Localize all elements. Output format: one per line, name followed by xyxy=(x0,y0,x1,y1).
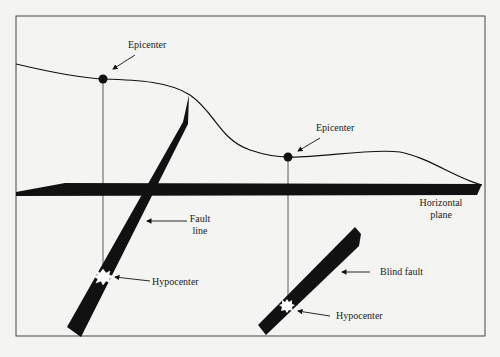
diagram-frame xyxy=(16,16,485,336)
epicenter-right-label: Epicenter xyxy=(316,122,354,134)
ground-surface-line xyxy=(16,64,482,185)
epicenter-right-dot xyxy=(284,153,293,162)
epicenter-right-arrow xyxy=(298,138,320,151)
fault-line-label: Fault line xyxy=(188,213,212,237)
horizontal-plane-shape xyxy=(16,183,482,196)
fault-diagram xyxy=(0,0,500,357)
epicenter-left-arrow xyxy=(113,55,135,69)
epicenter-left-dot xyxy=(99,75,108,84)
blind-fault-label: Blind fault xyxy=(380,266,423,278)
hypocenter-left-burst-icon xyxy=(93,269,113,285)
hypocenter-left-label: Hypocenter xyxy=(152,276,199,288)
hypocenter-right-label: Hypocenter xyxy=(336,310,383,322)
horizontal-plane-label: Horizontal plane xyxy=(416,197,466,221)
hypocenter-right-arrow xyxy=(298,311,330,316)
fault-line-shape xyxy=(67,95,189,337)
hypocenter-left-arrow xyxy=(115,277,150,281)
epicenter-left-label: Epicenter xyxy=(128,39,166,51)
